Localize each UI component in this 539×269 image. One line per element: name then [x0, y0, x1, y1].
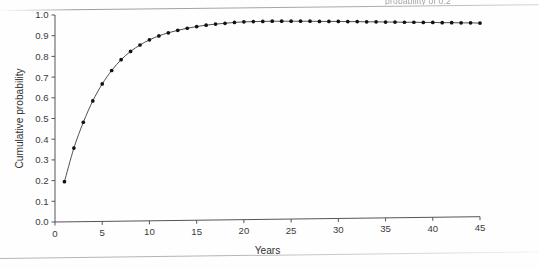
data-point-marker	[355, 20, 359, 24]
x-tick-label: 25	[286, 225, 297, 236]
data-point-marker	[469, 21, 473, 25]
data-point-marker	[450, 21, 454, 25]
x-tick-label: 30	[333, 224, 344, 235]
x-tick-label: 10	[144, 226, 155, 237]
data-point-marker	[318, 20, 322, 24]
data-point-marker	[336, 20, 340, 24]
data-point-marker	[346, 20, 350, 24]
data-point-marker	[195, 25, 199, 29]
data-point-marker	[185, 26, 189, 30]
data-point-marker	[204, 23, 208, 27]
data-point-marker	[251, 20, 255, 24]
data-point-marker	[214, 22, 218, 26]
y-tick-label: 0.1	[35, 196, 48, 207]
y-tick-label: 0.4	[35, 134, 49, 145]
data-point-marker	[459, 21, 463, 25]
y-tick-label: 0.0	[35, 216, 48, 227]
x-tick-label: 15	[191, 226, 202, 237]
data-point-marker	[148, 38, 152, 42]
data-point-marker	[327, 20, 331, 24]
data-point-marker	[100, 82, 104, 86]
data-point-marker	[119, 58, 123, 62]
data-point-marker	[421, 21, 425, 25]
x-tick-label: 5	[100, 227, 105, 238]
data-point-marker	[233, 21, 237, 25]
x-tick-label: 0	[52, 228, 57, 239]
data-point-marker	[431, 21, 435, 25]
data-point-marker	[393, 20, 397, 24]
y-tick-label: 0.2	[35, 175, 48, 186]
y-tick-label: 0.7	[35, 72, 48, 83]
x-tick-label: 35	[380, 223, 391, 234]
data-point-marker	[299, 19, 303, 23]
data-point-marker	[478, 21, 482, 25]
y-tick-label: 0.3	[35, 154, 48, 165]
data-point-marker	[91, 99, 95, 103]
data-point-marker	[72, 146, 76, 150]
data-point-marker	[403, 20, 407, 24]
chart-canvas: 0.00.10.20.30.40.50.60.70.80.91.0 051015…	[0, 0, 539, 269]
series-markers-cumulative-probability	[63, 19, 482, 183]
y-tick-label: 0.8	[35, 51, 48, 62]
y-tick-label: 0.9	[35, 30, 48, 41]
x-axis-spine	[55, 217, 480, 222]
y-axis-tickmarks	[52, 15, 56, 222]
scanned-page: probability of 0.2 0.00.10.20.30.40.50.6…	[0, 0, 539, 269]
x-tick-label: 45	[475, 222, 486, 233]
data-point-marker	[261, 20, 265, 24]
data-point-marker	[166, 31, 170, 35]
data-point-marker	[384, 20, 388, 24]
data-point-marker	[110, 69, 114, 73]
data-point-marker	[365, 20, 369, 24]
data-point-marker	[138, 43, 142, 47]
data-point-marker	[129, 50, 133, 54]
y-axis-title: Cumulative probability	[14, 67, 25, 168]
data-point-marker	[289, 19, 293, 23]
data-point-marker	[374, 20, 378, 24]
data-point-marker	[242, 20, 246, 24]
data-point-marker	[81, 120, 85, 124]
y-tick-label: 0.6	[35, 92, 48, 103]
y-axis-tick-labels: 0.00.10.20.30.40.50.60.70.80.91.0	[35, 9, 49, 227]
data-point-marker	[308, 19, 312, 23]
x-tick-label: 40	[427, 223, 438, 234]
data-point-marker	[440, 21, 444, 25]
series-line-cumulative-probability	[64, 21, 480, 181]
x-axis-tick-labels: 051015202530354045	[52, 222, 485, 238]
y-tick-label: 0.5	[35, 113, 48, 124]
data-point-marker	[176, 28, 180, 32]
x-tick-label: 20	[239, 225, 250, 236]
data-point-marker	[63, 180, 67, 184]
data-point-marker	[223, 21, 227, 25]
data-point-marker	[412, 20, 416, 24]
data-point-marker	[157, 34, 161, 38]
y-tick-label: 1.0	[35, 9, 48, 20]
cumulative-probability-chart: 0.00.10.20.30.40.50.60.70.80.91.0 051015…	[0, 0, 539, 269]
data-point-marker	[280, 19, 284, 23]
data-point-marker	[270, 19, 274, 23]
